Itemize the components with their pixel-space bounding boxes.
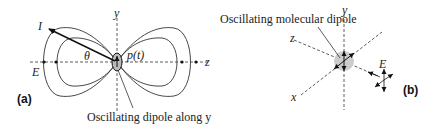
- intensity-arrow: [49, 29, 115, 61]
- panel-a: y z I θ p(t) E (a) Oscillating dipole al…: [17, 6, 211, 124]
- panel-b: y z x E (b) Oscillating molecular dipole: [220, 3, 418, 110]
- caption-pointer-a: [118, 70, 133, 108]
- panel-label-a: (a): [17, 92, 32, 106]
- panel-label-b: (b): [403, 83, 418, 97]
- caption-a: Oscillating dipole along y: [87, 110, 211, 124]
- angle-label: θ: [84, 49, 90, 63]
- caption-b: Oscillating molecular dipole: [220, 12, 357, 26]
- intensity-label: I: [37, 19, 43, 33]
- field-label-b: E: [378, 57, 387, 71]
- caption-pointer-b: [318, 27, 340, 58]
- axis-label-z-a: z: [204, 55, 210, 69]
- field-point: [194, 60, 197, 63]
- field-point: [42, 60, 45, 63]
- propagation-arrow: [368, 72, 378, 76]
- axis-label-x-b: x: [290, 90, 297, 104]
- field-point: [54, 60, 57, 63]
- e-field-arrow-diag-1: [384, 74, 393, 80]
- dipole-label: p(t): [126, 48, 144, 62]
- field-point: [180, 60, 183, 63]
- dipole-radiation-figure: y z I θ p(t) E (a) Oscillating dipole al…: [0, 0, 434, 127]
- e-field-arrow-diag-2: [375, 80, 384, 87]
- axis-label-y-a: y: [113, 6, 120, 20]
- axis-label-z-b: z: [289, 31, 295, 45]
- field-label-a: E: [31, 65, 40, 79]
